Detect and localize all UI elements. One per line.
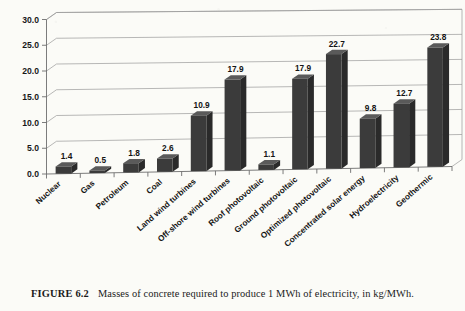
category-label: Gas: [79, 178, 97, 195]
bar: [56, 162, 78, 174]
bars: [56, 43, 449, 173]
bar-value-label: 22.7: [329, 39, 346, 49]
category-label: Roof photovoltaic: [207, 175, 266, 228]
y-axis-tick-labels: 0.05.010.015.020.025.030.0: [22, 15, 39, 180]
bar-value-label: 17.9: [295, 63, 312, 73]
bar-value-label: 23.8: [430, 32, 447, 42]
bar-value-label: 2.6: [162, 143, 174, 153]
y-tick-label: 0.0: [27, 169, 39, 179]
category-label: Geothermic: [394, 172, 435, 209]
category-label: Land wind turbines: [135, 177, 198, 233]
category-label: Ground photovoltaic: [233, 175, 300, 235]
bar: [292, 74, 314, 169]
chart-plot-area: 0.05.010.015.020.025.030.0 1.40.51.82.61…: [0, 0, 465, 272]
bar-value-label: 1.4: [61, 151, 73, 161]
category-label: Coal: [145, 178, 164, 196]
bar: [123, 159, 145, 173]
category-label: Petroleum: [94, 178, 130, 211]
bar: [360, 114, 382, 168]
figure-number: FIGURE 6.2: [31, 288, 89, 299]
y-tick-label: 15.0: [22, 92, 39, 102]
figure-caption: FIGURE 6.2Masses of concrete required to…: [31, 288, 451, 299]
y-tick-label: 25.0: [22, 40, 39, 50]
bar-value-label: 10.9: [194, 100, 211, 110]
bar-value-label: 17.9: [227, 64, 244, 74]
bar-value-label: 12.7: [396, 88, 413, 98]
bar: [225, 75, 247, 170]
bar: [89, 166, 111, 173]
figure-container: 0.05.010.015.020.025.030.0 1.40.51.82.61…: [0, 0, 465, 311]
bar-value-label: 1.8: [128, 148, 140, 158]
bar-value-labels: 1.40.51.82.610.917.91.117.922.79.812.723…: [61, 32, 447, 165]
bar-value-label: 0.5: [95, 155, 107, 165]
concrete-mass-bar-chart: 0.05.010.015.020.025.030.0 1.40.51.82.61…: [0, 0, 465, 272]
figure-caption-text: Masses of concrete required to produce 1…: [98, 288, 414, 299]
bar: [394, 99, 416, 167]
bar: [157, 154, 179, 172]
bar: [258, 160, 280, 170]
category-labels: NuclearGasPetroleumCoalLand wind turbine…: [34, 172, 435, 248]
bar-value-label: 9.8: [365, 103, 377, 113]
category-label: Nuclear: [34, 179, 63, 206]
y-tick-label: 5.0: [27, 143, 39, 153]
y-tick-label: 30.0: [22, 15, 39, 25]
y-tick-label: 20.0: [22, 66, 39, 76]
bar: [191, 111, 213, 171]
y-tick-label: 10.0: [22, 118, 39, 128]
bar-value-label: 1.1: [263, 149, 275, 159]
bar: [427, 43, 449, 167]
bar: [326, 50, 348, 169]
